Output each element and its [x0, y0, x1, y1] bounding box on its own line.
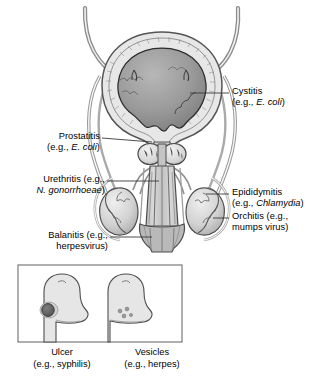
- callout-balanitis-line2: herpesvirus): [0, 241, 108, 252]
- species-name: Chlamydia: [256, 198, 300, 208]
- species-name: E. coli: [256, 97, 282, 107]
- bladder: [102, 32, 222, 150]
- caption-vesicles-line1: Vesicles: [106, 347, 198, 359]
- callout-epididymitis: Epididymitis (e.g., Chlamydia): [232, 187, 304, 210]
- testis-right: [186, 178, 229, 240]
- callout-prostatitis-line1: Prostatitis: [0, 131, 100, 142]
- callout-epididymitis-line2: (e.g., Chlamydia): [232, 198, 304, 209]
- callout-prostatitis-line2: (e.g., E. coli): [0, 142, 100, 153]
- caption-ulcer: Ulcer (e.g., syphilis): [12, 347, 112, 370]
- callout-balanitis-line1: Balanitis (e.g.,: [0, 230, 108, 241]
- prostate: [138, 144, 186, 169]
- callout-orchitis: Orchitis (e.g., mumps virus): [232, 211, 288, 234]
- penis-shaft: [146, 166, 178, 226]
- callout-balanitis: Balanitis (e.g., herpesvirus): [0, 230, 108, 253]
- callout-urethritis-line2: N. gonorrhoeae): [0, 185, 105, 196]
- figure-root: Cystitis (e.g., E. coli) Prostatitis (e.…: [0, 0, 328, 384]
- callout-cystitis-line2: (e.g., E. coli): [232, 97, 285, 108]
- inset-box: [18, 265, 182, 342]
- callout-prostatitis: Prostatitis (e.g., E. coli): [0, 131, 100, 154]
- callout-urethritis: Urethritis (e.g., N. gonorrhoeae): [0, 174, 105, 197]
- ulcer-lesion: [42, 304, 54, 317]
- caption-ulcer-line2: (e.g., syphilis): [12, 359, 112, 371]
- callout-orchitis-line2: mumps virus): [232, 222, 288, 233]
- callout-cystitis: Cystitis (e.g., E. coli): [232, 86, 285, 109]
- callout-orchitis-line1: Orchitis (e.g.,: [232, 211, 288, 222]
- caption-vesicles: Vesicles (e.g., herpes): [106, 347, 198, 370]
- caption-vesicles-line2: (e.g., herpes): [106, 359, 198, 371]
- species-name: E. coli: [71, 142, 97, 152]
- glans-penis: [139, 224, 184, 252]
- species-name: N. gonorrhoeae: [37, 185, 102, 195]
- caption-ulcer-line1: Ulcer: [12, 347, 112, 359]
- callout-epididymitis-line1: Epididymitis: [232, 187, 304, 198]
- callout-cystitis-line1: Cystitis: [232, 86, 285, 97]
- callout-urethritis-line1: Urethritis (e.g.,: [0, 174, 105, 185]
